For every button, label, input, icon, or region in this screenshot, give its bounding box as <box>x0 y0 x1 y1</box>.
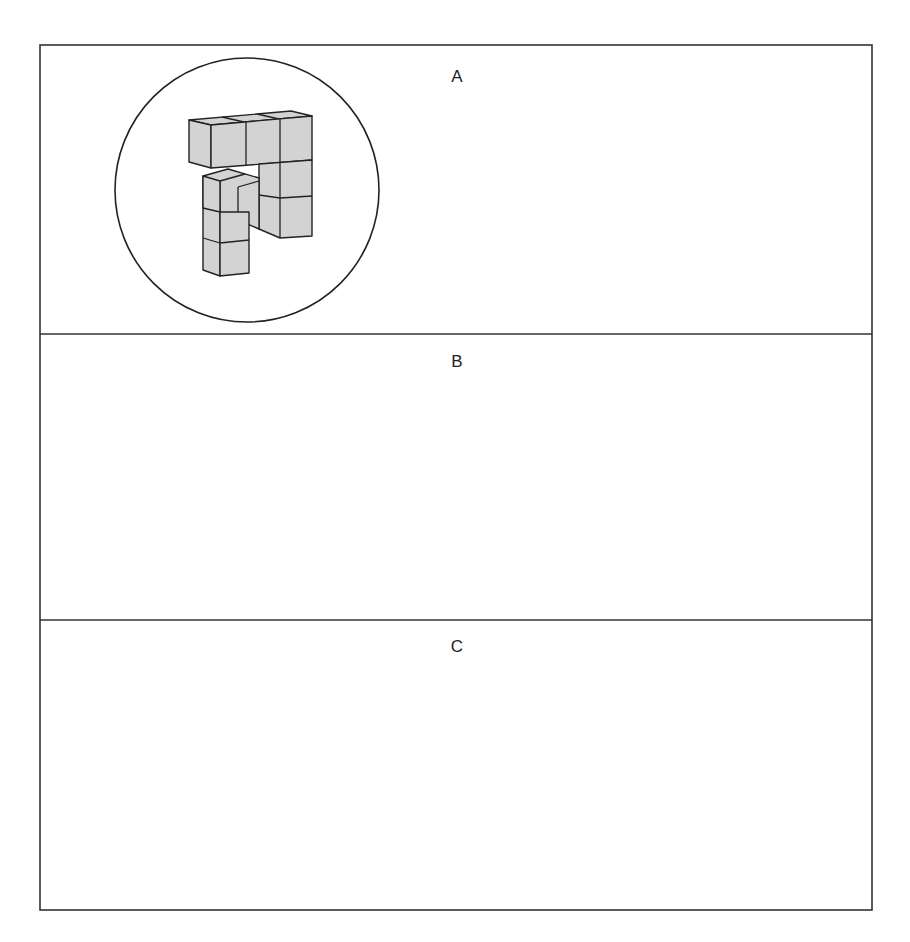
mental-rotation-figure: A <box>0 0 910 942</box>
figure-canvas <box>0 0 910 942</box>
panel-c-label: C <box>437 637 477 657</box>
panel-a <box>115 58 379 322</box>
panel-a-label: A <box>437 67 477 87</box>
panel-b-label: B <box>437 352 477 372</box>
